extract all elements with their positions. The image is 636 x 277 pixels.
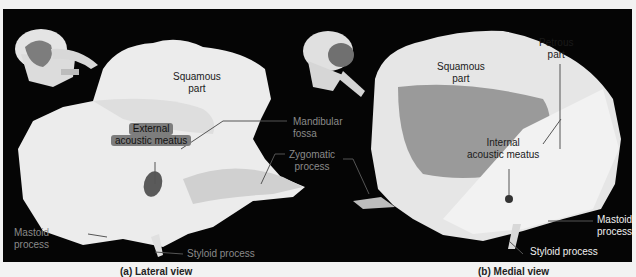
label-mastoid-process-medial: Mastoid process	[597, 214, 632, 237]
caption-lateral-view: (a) Lateral view	[120, 266, 192, 277]
skull-thumbnail-lateral-icon	[15, 29, 98, 87]
label-styloid-process-lateral: Styloid process	[187, 248, 255, 260]
label-external-acoustic-meatus: External acoustic meatus	[111, 123, 191, 146]
label-petrous-part: Petrous part	[539, 37, 573, 60]
figure-panel: Squamous part External acoustic meatus M…	[3, 9, 632, 262]
label-internal-acoustic-meatus: Internal acoustic meatus	[467, 137, 539, 160]
label-squamous-part-medial: Squamous part	[437, 61, 485, 84]
label-styloid-process-medial: Styloid process	[530, 246, 598, 258]
label-mandibular-fossa: Mandibular fossa	[293, 116, 342, 139]
label-mastoid-process-lateral: Mastoid process	[14, 227, 49, 250]
skull-thumbnail-medial-icon	[303, 31, 365, 97]
caption-medial-view: (b) Medial view	[478, 266, 549, 277]
label-squamous-part-lateral: Squamous part	[173, 71, 221, 94]
label-zygomatic-process: Zygomatic process	[289, 149, 335, 172]
